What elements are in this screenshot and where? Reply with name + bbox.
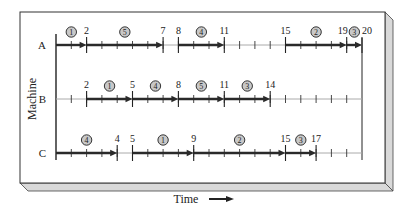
time-arrow-icon [209, 196, 234, 202]
job-number: 3 [245, 82, 249, 91]
job-number: 4 [85, 136, 89, 145]
job-number: 4 [199, 28, 203, 37]
time-label: 19 [338, 25, 348, 36]
job-number: 2 [238, 136, 242, 145]
time-label: 15 [281, 133, 291, 144]
time-label: 17 [311, 133, 321, 144]
machine-label: C [39, 147, 46, 159]
job-number: 1 [69, 28, 73, 37]
time-label: 5 [130, 79, 135, 90]
job-number: 3 [352, 28, 356, 37]
gantt-chart: Machine A1542327811151920B14532581114C41… [0, 0, 411, 208]
time-label: 5 [130, 133, 135, 144]
time-label: 14 [265, 79, 275, 90]
panel-frame [20, 12, 393, 191]
time-label: 8 [176, 25, 181, 36]
machine-label: A [38, 39, 46, 51]
time-label: 9 [191, 133, 196, 144]
y-axis-label: Machine [25, 78, 39, 120]
time-label: 4 [115, 133, 120, 144]
time-label: 11 [219, 79, 229, 90]
x-axis-label: Time [174, 192, 199, 206]
machine-label: B [39, 93, 46, 105]
job-number: 5 [199, 82, 203, 91]
time-label: 11 [219, 25, 229, 36]
time-label: 2 [84, 25, 89, 36]
time-label: 15 [281, 25, 291, 36]
job-number: 1 [161, 136, 165, 145]
time-label: 2 [84, 79, 89, 90]
time-label: 8 [176, 79, 181, 90]
time-label: 7 [161, 25, 166, 36]
time-label: 20 [362, 25, 372, 36]
job-number: 2 [314, 28, 318, 37]
job-number: 4 [153, 82, 157, 91]
job-number: 1 [108, 82, 112, 91]
job-number: 5 [123, 28, 127, 37]
job-number: 3 [299, 136, 303, 145]
